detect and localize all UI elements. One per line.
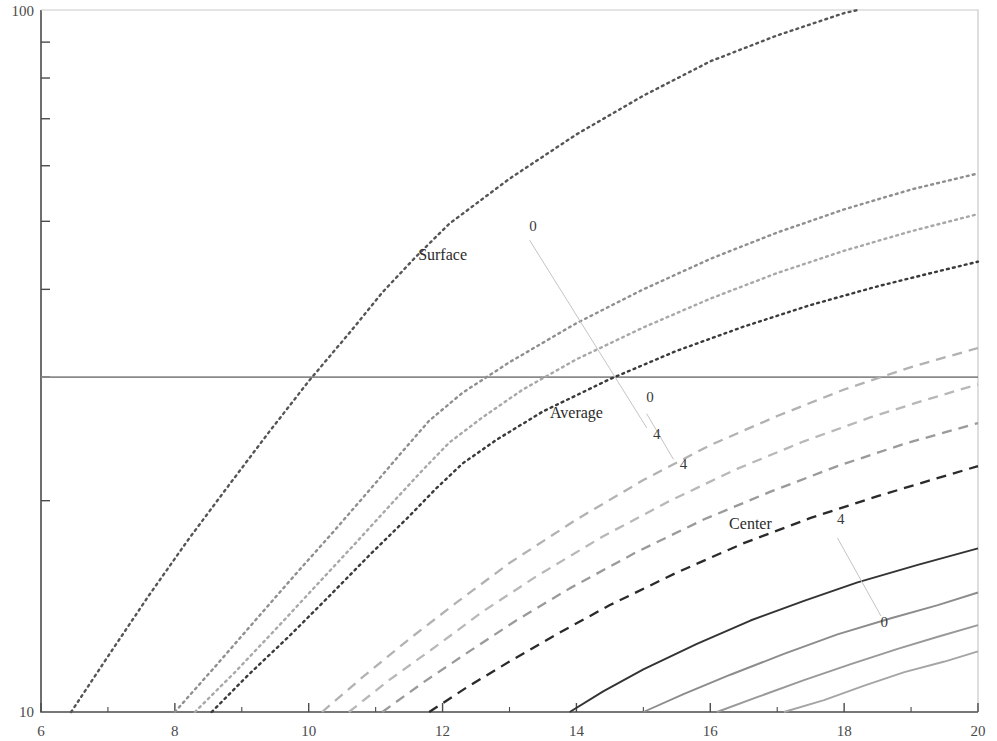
chart-canvas: 68101214161820 10010 Surface04Average04C… <box>0 0 997 741</box>
x-tick-label: 10 <box>301 723 316 739</box>
x-tick-label: 18 <box>837 723 852 739</box>
x-tick-label: 8 <box>171 723 179 739</box>
series-label-average: Average <box>550 404 603 422</box>
curve-tag-center-high: 4 <box>837 511 845 527</box>
series-label-surface: Surface <box>418 246 467 263</box>
curve-tag-center-low: 0 <box>881 614 889 630</box>
chart-background <box>0 0 997 741</box>
x-tick-label: 14 <box>569 723 585 739</box>
curve-tag-average-high: 0 <box>646 389 654 405</box>
y-tick-label-top: 100 <box>12 3 35 19</box>
y-tick-label-bottom: 10 <box>19 704 34 720</box>
x-tick-label: 20 <box>971 723 986 739</box>
x-tick-label: 6 <box>37 723 45 739</box>
x-tick-label: 12 <box>435 723 450 739</box>
curve-tag-surface-low: 4 <box>653 426 661 442</box>
log-line-chart: 68101214161820 10010 Surface04Average04C… <box>0 0 997 741</box>
curve-tag-surface-high: 0 <box>529 218 537 234</box>
series-label-center: Center <box>729 515 772 532</box>
x-tick-label: 16 <box>703 723 719 739</box>
curve-tag-average-low: 4 <box>680 456 688 472</box>
